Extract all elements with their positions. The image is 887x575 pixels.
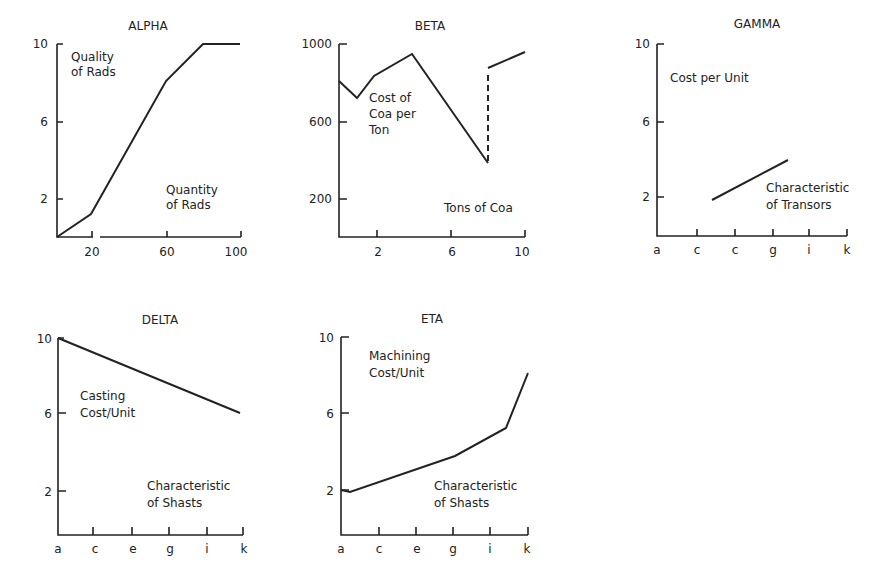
x-axis-label: of Shasts [147,496,202,510]
y-tick-label: 1000 [301,37,332,51]
chart-title: ALPHA [128,19,168,33]
x-tick-label: a [54,542,61,556]
y-axis-label: Casting [80,389,125,403]
y-ticks [58,338,66,491]
x-axis-label: Characteristic [147,479,230,493]
x-tick-label: 60 [159,245,174,259]
x-tick-label: 10 [514,245,529,259]
x-axis-label: of Transors [766,198,832,212]
x-tick-label: g [166,542,174,556]
y-axis-label: Machining [369,349,430,363]
x-ticks [93,527,243,535]
y-tick-label: 6 [44,407,52,421]
y-tick-label: 6 [326,407,334,421]
x-tick-label: 2 [374,245,382,259]
y-ticks [57,44,63,199]
chart-eta: ETA 10 6 2 a c e g i k Machining Cost/Un… [319,312,531,556]
chart-delta: DELTA 10 6 2 a c e g i k Casting Cost/Un… [37,313,248,556]
y-tick-label: 2 [40,192,48,206]
y-tick-label: 2 [642,190,650,204]
x-tick-label: k [524,542,531,556]
x-tick-label: c [694,243,701,257]
y-axis-label: Ton [368,123,389,137]
x-axis-label: Characteristic [766,181,849,195]
y-axis-label: Cost/Unit [80,406,135,420]
y-axis-label: Quality [71,50,114,64]
x-ticks [379,527,528,535]
x-tick-label: c [376,542,383,556]
x-tick-label: e [413,542,420,556]
x-axis-label: Quantity [166,183,218,197]
y-axis-label: Cost per Unit [670,71,749,85]
y-tick-label: 10 [33,37,48,51]
y-ticks [339,44,347,199]
x-tick-label: e [129,542,136,556]
chart-title: GAMMA [734,17,781,31]
y-tick-label: 10 [319,331,334,345]
x-tick-label: g [769,243,777,257]
x-axis-label: of Rads [166,198,211,212]
x-axis-label: Characteristic [434,479,517,493]
y-axis-label: Coa per [369,107,416,121]
x-tick-label: c [732,243,739,257]
x-tick-label: k [844,243,851,257]
x-axis-label: of Shasts [434,496,489,510]
y-axis-label: of Rads [71,65,116,79]
y-tick-label: 6 [40,115,48,129]
y-tick-label: 10 [635,37,650,51]
chart-title: BETA [415,19,446,33]
y-axis-label: Cost of [369,91,412,105]
chart-title: ETA [421,312,444,326]
y-tick-label: 200 [309,192,332,206]
x-tick-label: 20 [84,245,99,259]
x-tick-label: c [92,542,99,556]
x-ticks [377,230,525,237]
x-tick-label: i [205,542,208,556]
x-ticks [697,229,847,236]
x-tick-label: i [807,243,810,257]
y-ticks [657,44,664,197]
x-tick-label: k [241,542,248,556]
series-line [341,373,528,492]
y-ticks [341,337,349,490]
x-tick-label: a [653,243,660,257]
chart-alpha: ALPHA 10 6 2 20 60 100 Quality of Rads Q… [33,19,248,259]
chart-title: DELTA [142,313,179,327]
chart-beta: BETA 1000 600 200 2 6 10 Cost of Coa per… [301,19,529,259]
y-tick-label: 2 [44,485,52,499]
x-tick-label: i [488,542,491,556]
y-tick-label: 2 [326,484,334,498]
x-tick-label: a [337,542,344,556]
x-ticks [92,231,241,237]
x-tick-label: g [449,542,457,556]
x-tick-label: 6 [448,245,456,259]
y-tick-label: 600 [309,115,332,129]
charts-canvas: ALPHA 10 6 2 20 60 100 Quality of Rads Q… [0,0,887,575]
y-tick-label: 6 [642,115,650,129]
y-tick-label: 10 [37,332,52,346]
y-axis-label: Cost/Unit [369,366,424,380]
chart-gamma: GAMMA 10 6 2 a c c g i k Cost per Unit C… [635,17,851,257]
series-line [488,52,525,68]
x-axis-label: Tons of Coa [443,201,513,215]
x-tick-label: 100 [225,245,248,259]
